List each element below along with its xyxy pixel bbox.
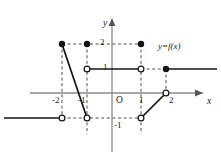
y-tick-label-neg1: -1 <box>114 121 122 130</box>
x-axis-arrowhead <box>195 90 203 97</box>
x-tick-label-1: 1 <box>139 96 144 105</box>
y-axis-arrowhead <box>109 18 116 26</box>
y-axis-label: y <box>103 19 107 29</box>
y-tick-label-2: 2 <box>100 38 105 47</box>
function-graph-figure: y x O -2 -1 1 2 1 2 -1 y=f(x) <box>0 0 221 167</box>
origin-label: O <box>116 96 123 106</box>
closed-dot-neg2-2 <box>59 41 65 47</box>
curve-group <box>4 44 217 118</box>
open-dot-neg1-neg1 <box>84 115 90 121</box>
x-axis-label: x <box>207 97 211 107</box>
open-dot-neg2-neg1 <box>59 115 65 121</box>
closed-dot-neg1-2 <box>84 41 90 47</box>
closed-dot-1-2 <box>138 41 144 47</box>
graph-canvas <box>0 0 221 167</box>
x-tick-label-2: 2 <box>169 96 174 105</box>
axes-group <box>30 18 203 152</box>
function-label: y=f(x) <box>158 42 181 51</box>
segment-rising <box>141 93 166 118</box>
closed-dot-2-1 <box>163 66 169 72</box>
open-dot-neg1-1 <box>84 66 90 72</box>
x-tick-label-neg2: -2 <box>52 96 60 105</box>
segment-falling <box>62 44 87 118</box>
open-dot-1-neg1 <box>138 115 144 121</box>
x-tick-label-neg1: -1 <box>78 96 86 105</box>
open-dot-1-1 <box>138 66 144 72</box>
endpoint-markers-group <box>59 41 169 121</box>
y-tick-label-1: 1 <box>103 63 108 72</box>
